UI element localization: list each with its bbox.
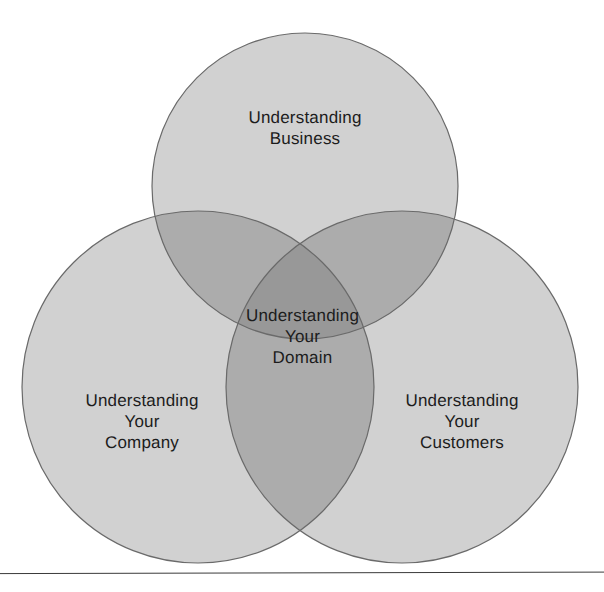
divider-line	[0, 572, 604, 574]
venn-diagram-canvas	[0, 0, 604, 592]
bottom-divider-rule	[0, 571, 604, 575]
venn-diagram-figure: Understanding Business Understanding You…	[0, 0, 604, 592]
